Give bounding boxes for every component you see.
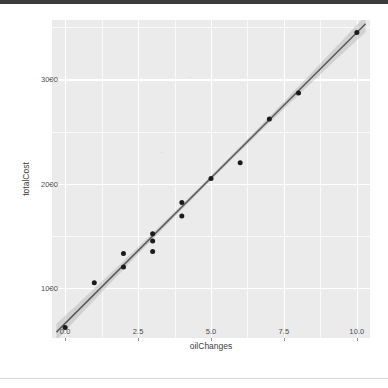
data-point	[121, 251, 126, 256]
data-point	[296, 90, 301, 95]
x-axis-tick-label: 7.5	[279, 327, 290, 336]
x-axis-tick	[138, 338, 139, 341]
x-axis-tick-label: 10.0	[349, 327, 364, 336]
x-axis-tick-label: 0.0	[60, 327, 71, 336]
screenshot-root: 0.02.55.07.510.0100020003000 oilChanges …	[0, 0, 388, 388]
data-point	[267, 117, 272, 122]
data-point	[150, 249, 155, 254]
data-point	[179, 200, 184, 205]
plot-figure: 0.02.55.07.510.0100020003000 oilChanges …	[0, 4, 388, 378]
data-point	[354, 30, 359, 35]
data-point	[150, 239, 155, 244]
data-point	[150, 231, 155, 236]
y-axis-tick-label: 1000	[41, 283, 58, 292]
y-axis-tick-label: 3000	[41, 75, 58, 84]
plot-panel	[52, 20, 370, 338]
x-axis-tick	[65, 338, 66, 341]
data-point	[92, 280, 97, 285]
speck	[190, 77, 191, 78]
x-axis-tick	[357, 338, 358, 341]
data-point	[209, 176, 214, 181]
x-axis-tick	[284, 338, 285, 341]
x-axis-tick-label: 2.5	[133, 327, 144, 336]
y-axis-tick-label: 2000	[41, 179, 58, 188]
speck	[361, 34, 362, 35]
bottom-divider	[0, 378, 388, 379]
x-axis-title: oilChanges	[190, 341, 233, 351]
data-point	[121, 265, 126, 270]
y-axis-title: totalCost	[21, 162, 31, 196]
speck	[161, 152, 162, 153]
data-point	[238, 160, 243, 165]
x-axis-tick-label: 5.0	[206, 327, 217, 336]
data-points-layer	[52, 20, 370, 338]
data-point	[179, 214, 184, 219]
